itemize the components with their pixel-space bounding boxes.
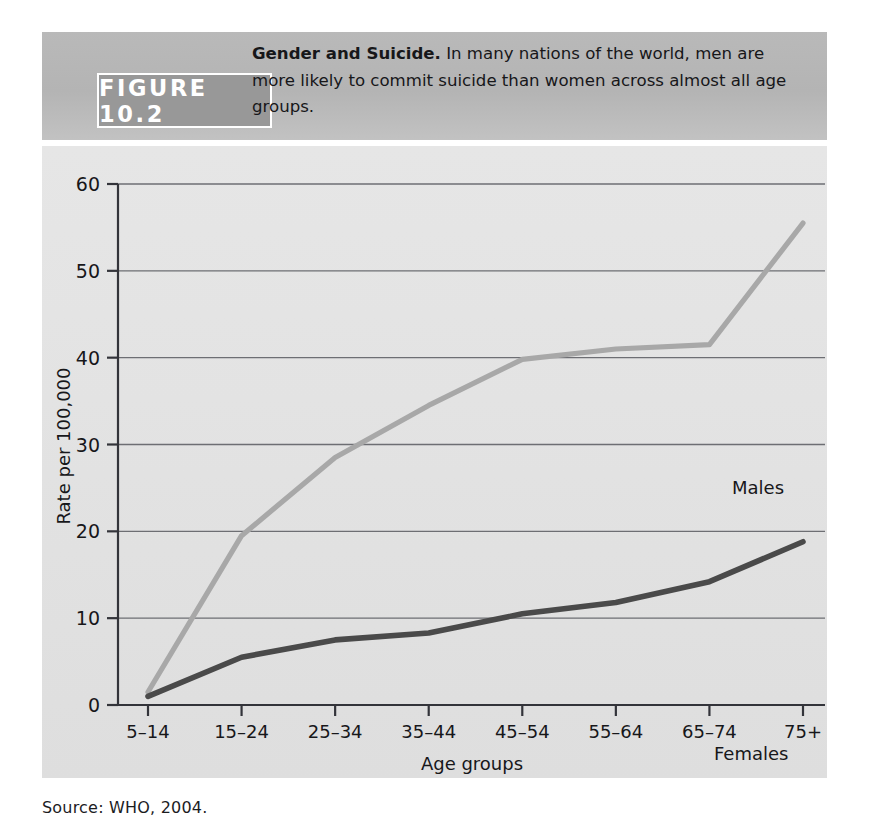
y-axis-ticks: 0102030405060 (76, 173, 118, 716)
gridlines (118, 184, 825, 618)
data-series-group (148, 223, 803, 696)
x-axis-tick-label: 45–54 (495, 721, 550, 742)
line-chart: 0102030405060 5–1415–2425–3435–4445–5455… (42, 146, 827, 778)
x-axis-tick-label: 5–14 (126, 721, 169, 742)
series-line-females (148, 542, 803, 697)
x-axis-tick-label: 65–74 (682, 721, 737, 742)
x-axis-tick-label: 35–44 (401, 721, 456, 742)
x-axis-tick-label: 55–64 (588, 721, 643, 742)
figure-page: FIGURE 10.2 Gender and Suicide. In many … (0, 0, 869, 831)
figure-number-badge: FIGURE 10.2 (97, 73, 272, 128)
chart-panel: 0102030405060 5–1415–2425–3435–4445–5455… (42, 146, 827, 778)
figure-number-label: FIGURE 10.2 (99, 75, 270, 127)
y-axis-tick-label: 40 (76, 347, 100, 369)
y-axis-title: Rate per 100,000 (53, 367, 74, 524)
source-note: Source: WHO, 2004. (42, 798, 207, 817)
y-axis-tick-label: 60 (76, 173, 100, 195)
x-axis-tick-label: 75+ (784, 721, 822, 742)
x-axis-tick-label: 15–24 (214, 721, 269, 742)
y-axis-tick-label: 20 (76, 520, 100, 542)
x-axis-title: Age groups (421, 753, 523, 774)
y-axis-tick-label: 30 (76, 434, 100, 456)
y-axis-tick-label: 10 (76, 607, 100, 629)
y-axis-tick-label: 0 (88, 694, 100, 716)
figure-caption: Gender and Suicide. In many nations of t… (252, 41, 812, 121)
x-axis-ticks: 5–1415–2425–3435–4445–5455–6465–7475+ (126, 705, 822, 742)
x-axis-tick-label: 25–34 (308, 721, 363, 742)
series-label-males: Males (732, 477, 784, 498)
series-label-females: Females (714, 743, 788, 764)
y-axis-tick-label: 50 (76, 260, 100, 282)
caption-title: Gender and Suicide. (252, 44, 441, 63)
